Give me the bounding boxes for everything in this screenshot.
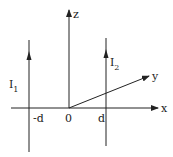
x-axis-label: x [161,102,168,115]
wire-i2-arrow-icon [104,49,109,58]
tick-neg-d: -d [33,112,44,125]
z-axis-label: z [73,8,79,21]
y-axis [69,76,149,108]
wire-i1-arrow-icon [27,51,32,60]
y-axis-label: y [151,70,159,83]
current-i1-label: I1 [9,78,18,94]
tick-pos-d: d [98,112,105,125]
coordinate-diagram: z y x -d 0 d I1 I2 [0,0,173,157]
current-i2-label: I2 [110,56,119,72]
tick-origin: 0 [65,112,72,125]
